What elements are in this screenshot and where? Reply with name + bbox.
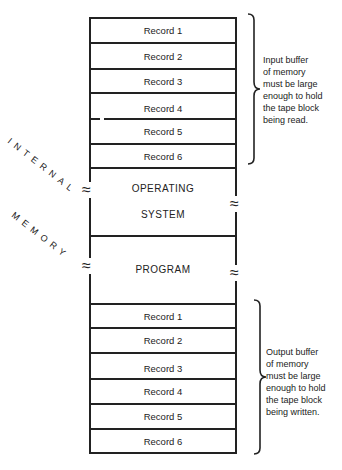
record-label: Record 2 — [144, 335, 183, 346]
record-label: Record 6 — [144, 151, 183, 162]
record-label: Record 3 — [144, 76, 183, 87]
os-label-1: OPERATING — [132, 176, 195, 202]
input-record-5: Record 5 — [89, 118, 237, 143]
break-icon: ≈ — [230, 265, 239, 281]
record-label: Record 3 — [144, 363, 183, 374]
note-line: must be large — [266, 370, 326, 382]
program-label: PROGRAM — [135, 257, 190, 283]
note-line: being written. — [266, 406, 326, 418]
note-line: Input buffer — [263, 54, 323, 66]
input-record-6: Record 6 — [89, 143, 237, 167]
memory-label: MEMORY — [10, 210, 72, 261]
record-label: Record 2 — [144, 51, 183, 62]
internal-label: INTERNAL — [6, 136, 79, 196]
note-line: of memory — [263, 66, 323, 78]
break-icon: ≈ — [230, 196, 239, 212]
output-record-1: Record 1 — [89, 303, 237, 327]
memory-bottom-line — [89, 452, 237, 454]
input-record-3: Record 3 — [89, 68, 237, 92]
record-label: Record 5 — [144, 411, 183, 422]
record-label: Record 5 — [144, 126, 183, 137]
break-icon: ≈ — [82, 258, 91, 274]
input-record-2: Record 2 — [89, 42, 237, 68]
output-record-6: Record 6 — [89, 428, 237, 452]
line-gap — [100, 116, 104, 120]
break-icon: ≈ — [82, 182, 91, 198]
output-record-3: Record 3 — [89, 352, 237, 378]
output-record-5: Record 5 — [89, 403, 237, 428]
input-record-1: Record 1 — [89, 17, 237, 42]
note-line: of memory — [266, 358, 326, 370]
input-record-4: Record 4 — [89, 92, 237, 118]
note-line: being read. — [263, 114, 323, 126]
note-line: enough to hold — [263, 90, 323, 102]
output-record-2: Record 2 — [89, 327, 237, 352]
output-record-4: Record 4 — [89, 378, 237, 403]
record-label: Record 6 — [144, 436, 183, 447]
note-line: the tape block — [266, 394, 326, 406]
note-line: must be large — [263, 78, 323, 90]
input-buffer-note: Input buffer of memory must be large eno… — [263, 54, 323, 126]
operating-system-block: OPERATING SYSTEM — [89, 167, 237, 235]
record-label: Record 4 — [144, 386, 183, 397]
note-line: the tape block — [263, 102, 323, 114]
note-line: Output buffer — [266, 346, 326, 358]
os-label-2: SYSTEM — [141, 202, 185, 228]
record-label: Record 1 — [144, 311, 183, 322]
program-block: PROGRAM — [89, 235, 237, 303]
input-brace-icon — [246, 12, 262, 167]
note-line: enough to hold — [266, 382, 326, 394]
record-label: Record 1 — [144, 25, 183, 36]
output-buffer-note: Output buffer of memory must be large en… — [266, 346, 326, 418]
record-label: Record 4 — [144, 103, 183, 114]
